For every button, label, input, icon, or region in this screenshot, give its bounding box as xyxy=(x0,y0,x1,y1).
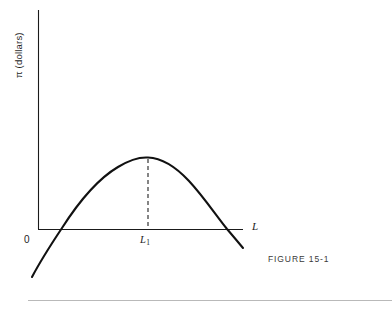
figure-caption: FIGURE 15-1 xyxy=(268,254,329,264)
l1-tick-letter: L xyxy=(140,234,146,245)
l1-tick-subscript: 1 xyxy=(146,238,150,247)
y-axis-label: π (dollars) xyxy=(14,56,84,78)
x-axis-label: L xyxy=(252,220,258,232)
origin-label: 0 xyxy=(24,234,30,245)
profit-curve-chart xyxy=(0,0,392,311)
profit-curve xyxy=(32,157,243,277)
figure-page: π (dollars) 0 L1 L FIGURE 15-1 xyxy=(0,0,392,311)
l1-tick-label: L1 xyxy=(140,234,150,245)
